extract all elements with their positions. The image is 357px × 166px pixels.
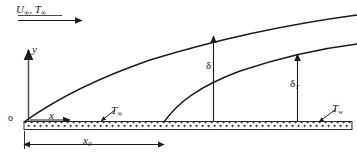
y-axis-label: y — [32, 44, 37, 55]
unheated-length-label: x0 — [83, 135, 91, 148]
thermal-thickness-label: δT — [290, 78, 299, 91]
velocity-thickness-label: δ — [206, 60, 211, 71]
wall-temperature-label: Tw — [332, 103, 343, 116]
ambient-temperature-label: T∞ — [111, 105, 122, 118]
thermal-thickness-subscript: T — [295, 83, 299, 90]
thermal-boundary-layer-curve — [164, 44, 357, 122]
origin-label: o — [8, 113, 13, 123]
x-axis-label: x — [49, 110, 54, 121]
diagram-canvas — [0, 0, 357, 166]
ambient-temperature-subscript: ∞ — [117, 110, 122, 118]
velocity-boundary-layer-curve — [24, 15, 357, 122]
freestream-label: U∞, T∞ — [16, 4, 46, 17]
freestream-velocity-symbol: U — [16, 3, 24, 15]
unheated-length-subscript: 0 — [88, 140, 91, 147]
wall-temperature-subscript: w — [338, 108, 343, 115]
flat-plate — [24, 122, 352, 130]
freestream-temperature-subscript: ∞ — [41, 9, 46, 17]
boundary-layer-figure: U∞, T∞ y o x T∞ Tw δ δT x0 — [0, 0, 357, 166]
